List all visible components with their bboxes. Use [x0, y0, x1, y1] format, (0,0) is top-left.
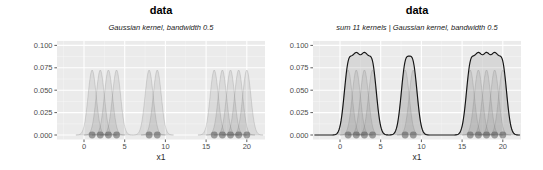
y-tick-label: 0.100: [290, 41, 309, 50]
y-tick-label: 0.025: [290, 108, 309, 117]
data-point: [369, 132, 376, 139]
data-point: [89, 132, 96, 139]
kde-chart-sum: 051015200.0000.0250.0500.0750.100 data s…: [271, 0, 543, 170]
data-point: [97, 132, 104, 139]
data-point: [113, 132, 120, 139]
x-tick-label: 20: [243, 142, 251, 151]
y-tick-label: 0.075: [34, 63, 53, 72]
y-tick-label: 0.000: [34, 131, 53, 140]
kde-figure: 051015200.0000.0250.0500.0750.100 data G…: [0, 0, 543, 170]
data-point: [227, 132, 234, 139]
x-tick-label: 0: [338, 142, 342, 151]
data-point: [105, 132, 112, 139]
x-tick-label: 5: [379, 142, 383, 151]
data-point: [353, 132, 360, 139]
data-point: [491, 132, 498, 139]
kde-chart-kernels: 051015200.0000.0250.0500.0750.100 data G…: [0, 0, 271, 170]
data-point: [345, 132, 352, 139]
data-point: [235, 132, 242, 139]
y-tick-label: 0.075: [290, 63, 309, 72]
y-tick-label: 0.050: [290, 86, 309, 95]
x-tick-label: 0: [82, 142, 86, 151]
data-point: [361, 132, 368, 139]
x-tick-label: 5: [123, 142, 127, 151]
data-point: [211, 132, 218, 139]
y-tick-label: 0.000: [290, 131, 309, 140]
data-point: [410, 132, 417, 139]
data-point: [483, 132, 490, 139]
x-tick-label: 15: [458, 142, 466, 151]
data-point: [475, 132, 482, 139]
data-point: [467, 132, 474, 139]
data-point: [499, 132, 506, 139]
data-point: [146, 132, 153, 139]
x-tick-label: 10: [161, 142, 169, 151]
data-point: [402, 132, 409, 139]
kde-plot-canvas-right: 051015200.0000.0250.0500.0750.100: [271, 0, 543, 170]
x-tick-label: 20: [499, 142, 507, 151]
kde-plot-canvas-left: 051015200.0000.0250.0500.0750.100: [0, 0, 271, 170]
data-point: [219, 132, 226, 139]
data-point: [154, 132, 161, 139]
x-tick-label: 10: [417, 142, 425, 151]
y-tick-label: 0.050: [34, 86, 53, 95]
x-tick-label: 15: [202, 142, 210, 151]
y-tick-label: 0.100: [34, 41, 53, 50]
y-tick-label: 0.025: [34, 108, 53, 117]
data-point: [243, 132, 250, 139]
